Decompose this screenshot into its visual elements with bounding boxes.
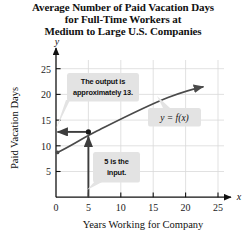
ytick-label-5: 5: [46, 166, 51, 177]
xtick-label-0: 0: [54, 202, 59, 213]
input-callout: 5 is the input.: [87, 152, 140, 190]
xtick-label-5: 5: [86, 202, 91, 213]
output-callout: The output is approximately 13.: [56, 73, 139, 129]
x-axis-label: Years Working for Company: [83, 219, 204, 230]
input-callout-line-2: input.: [107, 168, 126, 177]
x-axis-letter: x: [236, 191, 242, 202]
input-callout-tail: [87, 180, 104, 190]
input-callout-line-1: 5 is the: [104, 157, 128, 166]
ytick-label-15: 15: [41, 115, 51, 126]
output-callout-tail: [56, 100, 70, 129]
xtick-label-15: 15: [148, 202, 158, 213]
xtick-label-10: 10: [116, 202, 126, 213]
xtick-label-20: 20: [181, 202, 191, 213]
xtick-label-25: 25: [213, 202, 223, 213]
curve-start-cap: [56, 151, 60, 155]
chart-figure: Average Number of Paid Vacation Days for…: [0, 0, 246, 246]
ytick-label-20: 20: [41, 89, 51, 100]
function-label-text: y = f(x): [159, 113, 189, 124]
y-axis-label: Paid Vacation Days: [9, 87, 20, 169]
ytick-label-25: 25: [41, 64, 51, 75]
output-callout-line-1: The output is: [81, 77, 125, 86]
plot-area: 0 5 10 15 20 25 5 10 15 20 25 y x Years …: [0, 0, 246, 246]
ytick-label-10: 10: [41, 141, 51, 152]
output-callout-line-2: approximately 13.: [73, 88, 133, 97]
function-label: y = f(x): [148, 96, 201, 127]
y-axis-letter: y: [54, 36, 60, 47]
marked-point: [86, 129, 91, 134]
x-tick-marks: [88, 193, 218, 198]
